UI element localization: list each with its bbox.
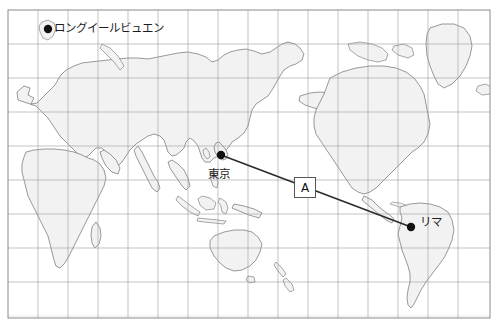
city-marker-longyearbyen xyxy=(44,25,52,33)
city-marker-tokyo xyxy=(217,151,225,159)
city-label-lima: リマ xyxy=(420,213,442,229)
city-label-longyearbyen: ロングイールビュエン xyxy=(54,19,164,35)
city-label-tokyo: 東京 xyxy=(208,165,230,181)
route-label-a: A xyxy=(294,177,316,198)
map-canvas xyxy=(0,0,499,335)
city-marker-lima xyxy=(407,223,415,231)
world-map-figure: ロングイールビュエン 東京 リマ A xyxy=(0,0,499,335)
